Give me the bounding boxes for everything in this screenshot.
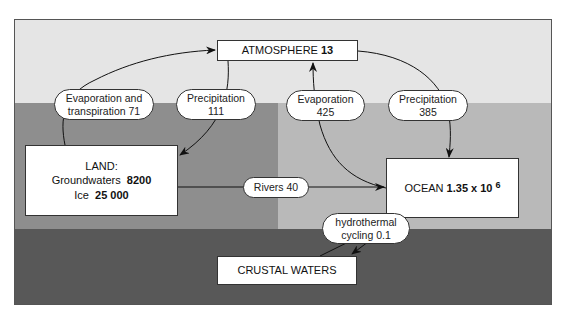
atmosphere-label: ATMOSPHERE [242,43,318,57]
ice-value: 25 000 [95,189,129,201]
groundwaters-label: Groundwaters [52,174,121,186]
flux-precipitation-ocean: Precipitation 385 [388,90,468,121]
crustal-waters-reservoir: CRUSTAL WATERS [217,256,357,285]
flux-label-line1: Precipitation [399,93,457,106]
flux-label-line1: Evaporation and [66,92,142,105]
ocean-reservoir: OCEAN 1.35 x 10 6 [386,158,519,218]
flux-label-line1: Precipitation [187,92,245,105]
flux-label-line1: Rivers 40 [254,181,298,194]
flux-label-line2: 111 [208,105,224,118]
flux-evapotranspiration: Evaporation and transpiration 71 [54,89,154,120]
atmosphere-reservoir: ATMOSPHERE 13 [217,40,358,61]
groundwaters-line: Groundwaters 8200 [52,173,152,187]
ocean-exponent: 6 [496,180,501,192]
flux-rivers: Rivers 40 [243,177,309,198]
flux-hydrothermal: hydrothermal cycling 0.1 [322,213,410,244]
flux-label-line2: transpiration 71 [68,105,140,118]
land-reservoir: LAND: Groundwaters 8200 Ice 25 000 [25,145,178,216]
groundwaters-value: 8200 [127,174,151,186]
flux-label-line2: cycling 0.1 [341,229,391,242]
flux-label-line2: 425 [317,106,335,119]
flux-label-line1: hydrothermal [335,216,396,229]
ice-label: Ice [74,189,89,201]
land-label: LAND: [85,159,117,173]
ocean-label: OCEAN [404,181,443,195]
ocean-value: 1.35 x 10 [447,181,493,195]
atmosphere-value: 13 [321,43,333,57]
flux-evaporation-ocean: Evaporation 425 [286,90,365,121]
flux-label-line1: Evaporation [297,93,353,106]
flux-precipitation-land: Precipitation 111 [176,89,256,120]
flux-label-line2: 385 [419,106,437,119]
ice-line: Ice 25 000 [74,188,128,202]
crust-label: CRUSTAL WATERS [237,263,336,277]
